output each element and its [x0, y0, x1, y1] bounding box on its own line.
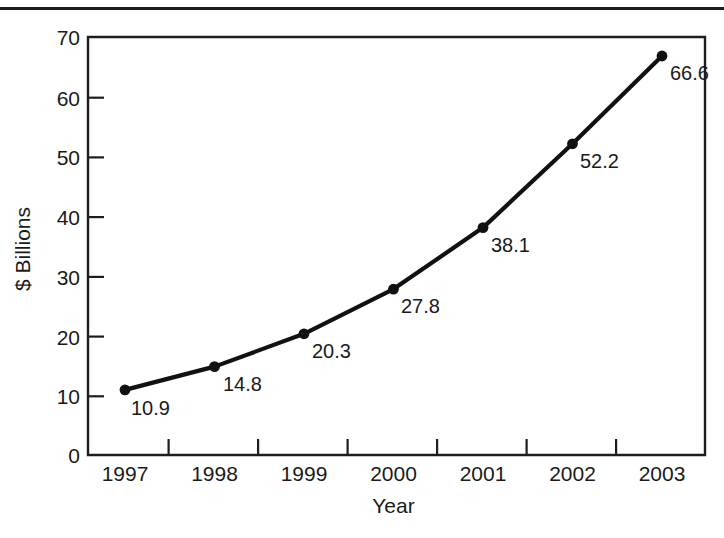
value-label-2000: 27.8: [401, 295, 440, 317]
x-axis-title: Year: [372, 494, 414, 517]
data-point-2002: [567, 138, 578, 149]
data-markers: [120, 51, 668, 396]
x-tick-label-2003: 2003: [639, 462, 686, 485]
x-axis-tick-labels: 1997 1998 1999 2000 2001 2002 2003: [102, 462, 686, 485]
y-tick-label-0: 0: [68, 444, 80, 467]
value-label-1998: 14.8: [223, 373, 262, 395]
value-label-1997: 10.9: [131, 397, 170, 419]
x-tick-label-2000: 2000: [370, 462, 417, 485]
y-axis-ticks: [88, 98, 104, 397]
y-tick-label-50: 50: [57, 146, 80, 169]
chart-figure: 70 60 50 40 30 20 10 0 $ Billions 1997 1…: [0, 0, 724, 538]
data-point-1998: [209, 361, 220, 372]
data-point-1999: [299, 328, 310, 339]
x-tick-label-1999: 1999: [281, 462, 328, 485]
data-point-1997: [120, 385, 131, 396]
value-label-2001: 38.1: [491, 234, 530, 256]
data-series: [125, 56, 662, 390]
x-tick-label-1997: 1997: [102, 462, 149, 485]
value-label-2003: 66.6: [670, 62, 709, 84]
y-tick-label-60: 60: [57, 87, 80, 110]
line-chart-plot: 70 60 50 40 30 20 10 0 $ Billions 1997 1…: [0, 0, 724, 538]
value-label-1999: 20.3: [312, 340, 351, 362]
y-axis-title: $ Billions: [11, 207, 34, 291]
series-line-path: [125, 56, 662, 390]
data-point-2000: [388, 284, 399, 295]
x-axis-title-text: Year: [372, 494, 414, 517]
x-tick-label-1998: 1998: [191, 462, 238, 485]
y-tick-label-40: 40: [57, 206, 80, 229]
y-tick-label-30: 30: [57, 266, 80, 289]
plot-frame: [88, 37, 705, 455]
value-label-2002: 52.2: [580, 150, 619, 172]
data-point-2001: [478, 222, 489, 233]
y-tick-label-20: 20: [57, 326, 80, 349]
y-axis-tick-labels: 70 60 50 40 30 20 10 0: [57, 26, 80, 467]
y-tick-label-10: 10: [57, 385, 80, 408]
x-tick-label-2001: 2001: [460, 462, 507, 485]
x-axis-ticks: [169, 439, 616, 455]
x-tick-label-2002: 2002: [549, 462, 596, 485]
y-axis-title-text: $ Billions: [11, 207, 34, 291]
data-point-2003: [657, 51, 668, 62]
y-tick-label-70: 70: [57, 26, 80, 49]
